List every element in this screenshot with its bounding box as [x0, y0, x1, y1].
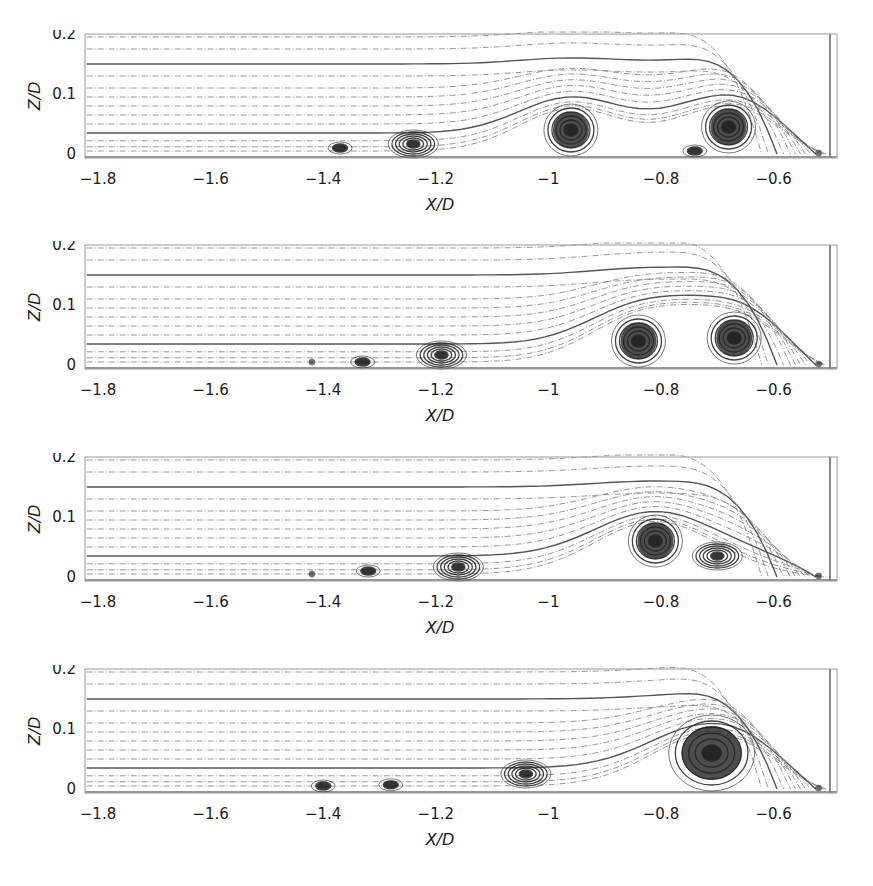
x-tick-label: −1.4 — [305, 593, 341, 611]
streamlines — [85, 455, 837, 581]
vortex — [669, 715, 755, 791]
y-tick-label: 0.2 — [52, 665, 76, 678]
vortex — [692, 542, 742, 570]
vortex — [611, 315, 665, 367]
plot-area: 00.10.2 −1.8−1.6−1.4−1.2−1−0.8−0.6 Z/D X… — [0, 30, 873, 242]
x-axis-label: X/D — [425, 618, 455, 637]
x-axis-ticks: −1.8−1.6−1.4−1.2−1−0.8−0.6 — [80, 381, 792, 399]
x-tick-label: −1.6 — [192, 381, 228, 399]
y-axis-ticks: 00.10.2 — [52, 30, 76, 163]
x-tick-label: −1.6 — [192, 805, 228, 823]
streamline-panel-1: 00.10.2 −1.8−1.6−1.4−1.2−1−0.8−0.6 Z/D X… — [0, 30, 873, 242]
streamline-panel-4: 00.10.2 −1.8−1.6−1.4−1.2−1−0.8−0.6 Z/D X… — [0, 665, 873, 877]
vortex-group — [311, 715, 821, 792]
x-tick-label: −1.6 — [192, 170, 228, 188]
vortex-group — [309, 515, 822, 581]
streamline-panel-3: 00.10.2 −1.8−1.6−1.4−1.2−1−0.8−0.6 Z/D X… — [0, 453, 873, 665]
streamline — [87, 68, 791, 154]
x-tick-label: −1 — [537, 805, 559, 823]
y-tick-label: 0 — [66, 356, 76, 374]
y-axis-ticks: 00.10.2 — [52, 241, 76, 374]
plot-area: 00.10.2 −1.8−1.6−1.4−1.2−1−0.8−0.6 Z/D X… — [0, 241, 873, 453]
y-tick-label: 0.2 — [52, 241, 76, 254]
x-tick-label: −0.8 — [643, 593, 679, 611]
streamline — [87, 70, 784, 154]
plot-area: 00.10.2 −1.8−1.6−1.4−1.2−1−0.8−0.6 Z/D X… — [0, 453, 873, 665]
x-tick-label: −1.6 — [192, 593, 228, 611]
x-tick-label: −0.6 — [755, 593, 791, 611]
streamline-panel-2: 00.10.2 −1.8−1.6−1.4−1.2−1−0.8−0.6 Z/D X… — [0, 241, 873, 453]
vortex — [379, 779, 403, 791]
streamline — [87, 493, 784, 577]
x-tick-label: −0.8 — [643, 381, 679, 399]
y-axis-label: Z/D — [25, 82, 44, 112]
x-tick-label: −0.6 — [755, 805, 791, 823]
x-tick-label: −1.2 — [418, 170, 454, 188]
x-axis-ticks: −1.8−1.6−1.4−1.2−1−0.8−0.6 — [80, 170, 792, 188]
x-tick-label: −1.2 — [418, 805, 454, 823]
y-tick-label: 0.1 — [52, 508, 76, 526]
vortex — [309, 359, 315, 365]
y-axis-label: Z/D — [25, 505, 44, 535]
x-tick-label: −0.8 — [643, 170, 679, 188]
vortex — [628, 515, 682, 567]
vortex — [388, 130, 438, 158]
streamline — [87, 497, 801, 577]
y-axis-ticks: 00.10.2 — [52, 665, 76, 798]
streamline — [87, 291, 811, 365]
x-axis-label: X/D — [425, 406, 455, 425]
y-axis-ticks: 00.10.2 — [52, 453, 76, 586]
streamline — [87, 507, 811, 578]
vortex — [816, 361, 822, 367]
streamline — [87, 299, 821, 365]
vortex — [816, 785, 822, 791]
x-axis-ticks: −1.8−1.6−1.4−1.2−1−0.8−0.6 — [80, 593, 792, 611]
vortex — [328, 142, 352, 154]
y-tick-label: 0 — [66, 780, 76, 798]
x-tick-label: −1 — [537, 170, 559, 188]
y-tick-label: 0 — [66, 145, 76, 163]
vortex — [683, 145, 707, 157]
x-tick-label: −1.8 — [80, 381, 116, 399]
x-tick-label: −1.8 — [80, 170, 116, 188]
y-axis-label: Z/D — [25, 293, 44, 323]
x-tick-label: −1 — [537, 381, 559, 399]
y-tick-label: 0.1 — [52, 720, 76, 738]
y-tick-label: 0.2 — [52, 30, 76, 43]
vortex — [816, 150, 822, 156]
streamline — [87, 79, 801, 154]
y-tick-label: 0.1 — [52, 85, 76, 103]
y-tick-label: 0.2 — [52, 453, 76, 466]
vortex — [433, 553, 483, 581]
vortex-group — [309, 312, 822, 369]
streamline — [87, 705, 784, 789]
x-axis-label: X/D — [425, 195, 455, 214]
x-tick-label: −0.8 — [643, 805, 679, 823]
x-tick-label: −1.8 — [80, 593, 116, 611]
x-tick-label: −1.8 — [80, 805, 116, 823]
vortex — [356, 565, 380, 577]
vortex — [816, 573, 822, 579]
vortex — [707, 312, 761, 364]
x-tick-label: −1.4 — [305, 381, 341, 399]
y-axis-label: Z/D — [25, 717, 44, 747]
x-axis-ticks: −1.8−1.6−1.4−1.2−1−0.8−0.6 — [80, 805, 792, 823]
streamline — [87, 84, 806, 154]
vortex — [702, 101, 756, 153]
x-tick-label: −0.6 — [755, 381, 791, 399]
vortex — [416, 341, 466, 369]
x-tick-label: −1.4 — [305, 805, 341, 823]
x-tick-label: −1.2 — [418, 593, 454, 611]
vortex — [501, 760, 551, 788]
y-tick-label: 0.1 — [52, 296, 76, 314]
x-tick-label: −1.4 — [305, 170, 341, 188]
x-tick-label: −0.6 — [755, 170, 791, 188]
y-tick-label: 0 — [66, 568, 76, 586]
x-tick-label: −1 — [537, 593, 559, 611]
vortex — [309, 571, 315, 577]
vortex — [544, 104, 598, 156]
streamline — [87, 502, 806, 577]
plot-area: 00.10.2 −1.8−1.6−1.4−1.2−1−0.8−0.6 Z/D X… — [0, 665, 873, 877]
x-tick-label: −1.2 — [418, 381, 454, 399]
streamline — [87, 667, 762, 789]
